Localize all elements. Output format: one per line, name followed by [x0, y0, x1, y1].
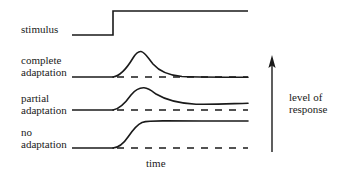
- series-stimulus: [72, 11, 248, 35]
- label-complete-adaptation: complete adaptation: [21, 55, 67, 78]
- level-of-response-arrow: [268, 55, 275, 152]
- stimulus-step-path: [72, 11, 248, 35]
- label-stimulus: stimulus: [21, 24, 58, 36]
- series-partial-adaptation: [72, 88, 248, 110]
- partial-adaptation-curve: [113, 88, 248, 110]
- label-level-of-response-axis: level of response: [289, 92, 328, 115]
- label-no-adaptation: no adaptation: [21, 127, 67, 150]
- series-complete-adaptation: [72, 51, 248, 77]
- complete-adaptation-curve: [113, 51, 248, 77]
- no-adaptation-curve: [113, 121, 248, 148]
- adaptation-figure: stimulus complete adaptation partial ada…: [0, 0, 337, 180]
- label-time-axis: time: [146, 158, 166, 170]
- label-partial-adaptation: partial adaptation: [21, 93, 67, 116]
- series-no-adaptation: [72, 121, 248, 148]
